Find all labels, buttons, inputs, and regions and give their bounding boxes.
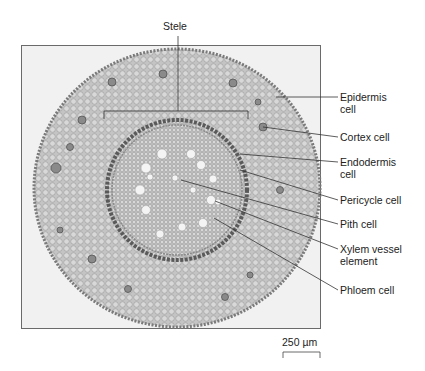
label-xylem-vessel-element: Xylem vessel element [340,243,402,267]
label-cortex-cell: Cortex cell [340,131,390,143]
stele-label: Stele [163,20,187,32]
root-cross-section [34,49,320,327]
label-phloem-cell: Phloem cell [340,284,394,296]
diagram-graphics [0,0,425,371]
label-endodermis-cell: Endodermis cell [340,156,396,180]
label-epidermis-cell: Epidermis cell [340,91,387,115]
scale-bar-label: 250 µm [282,336,317,348]
label-pericycle-cell: Pericycle cell [340,194,401,206]
scale-bar [283,352,320,358]
label-pith-cell: Pith cell [340,218,377,230]
